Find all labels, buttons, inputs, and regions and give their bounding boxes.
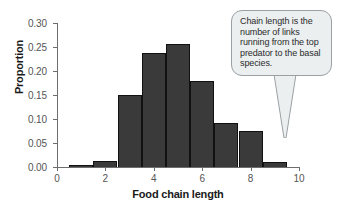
- x-tick: [299, 167, 300, 171]
- y-tick: 0.10: [53, 119, 57, 120]
- y-tick: 0.25: [53, 47, 57, 48]
- annotation-callout: Chain length is the number of links runn…: [231, 10, 332, 76]
- histogram-bar: [239, 131, 263, 167]
- x-tick-label: 8: [248, 173, 254, 184]
- x-tick: [251, 167, 252, 171]
- y-tick-label: 0.05: [28, 138, 47, 149]
- y-tick-label: 0.00: [28, 162, 47, 173]
- callout-pointer-icon: [272, 68, 298, 138]
- histogram-figure: Proportion Food chain length 0.000.050.1…: [0, 0, 341, 211]
- histogram-bar: [263, 162, 287, 167]
- y-tick-label: 0.25: [28, 42, 47, 53]
- histogram-bar: [93, 161, 117, 167]
- x-tick-label: 6: [199, 173, 205, 184]
- histogram-bar: [142, 53, 166, 167]
- x-tick: [105, 167, 106, 171]
- histogram-bar: [118, 95, 142, 167]
- histogram-bar: [214, 123, 238, 167]
- y-tick-label: 0.20: [28, 66, 47, 77]
- x-tick: [154, 167, 155, 171]
- x-tick-label: 10: [293, 173, 304, 184]
- y-axis-line: [57, 23, 58, 168]
- y-tick: 0.20: [53, 71, 57, 72]
- y-tick-label: 0.10: [28, 114, 47, 125]
- x-axis-line: [57, 167, 299, 168]
- histogram-bar: [190, 81, 214, 167]
- x-tick-label: 4: [151, 173, 157, 184]
- y-tick-label: 0.15: [28, 90, 47, 101]
- y-axis-title: Proportion: [9, 22, 29, 112]
- y-tick: 0.05: [53, 143, 57, 144]
- y-tick: 0.15: [53, 95, 57, 96]
- x-tick: [202, 167, 203, 171]
- y-tick: 0.30: [53, 23, 57, 24]
- y-tick-label: 0.30: [28, 18, 47, 29]
- histogram-bar: [69, 165, 93, 167]
- x-axis-title: Food chain length: [57, 188, 299, 200]
- x-tick-label: 0: [54, 173, 60, 184]
- x-tick: [57, 167, 58, 171]
- histogram-bar: [166, 44, 190, 167]
- x-tick-label: 2: [103, 173, 109, 184]
